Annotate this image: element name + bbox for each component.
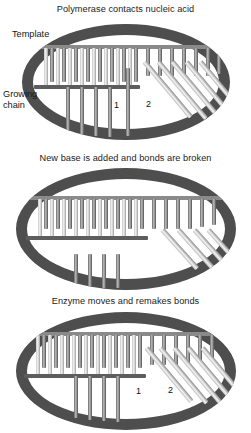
base-rung — [62, 48, 66, 82]
panel-stage — [0, 148, 251, 293]
base-rung — [92, 199, 96, 229]
panel-stage: Template Growing chain 1 2 — [0, 0, 251, 148]
free-rung — [102, 376, 106, 421]
base-rung — [56, 48, 60, 87]
base-rung — [54, 335, 58, 368]
ellipse-clip-region — [16, 312, 236, 430]
base-rung — [98, 48, 102, 82]
site-2-label: 2 — [146, 99, 151, 109]
ellipse-clip-region — [16, 168, 236, 290]
unpaired-rung — [164, 199, 168, 229]
free-rung — [116, 254, 120, 288]
base-rung — [72, 335, 76, 375]
base-rung — [122, 199, 126, 237]
base-rung — [134, 48, 138, 82]
ellipse-clip-region — [22, 24, 230, 140]
base-rung — [42, 335, 46, 368]
base-rung — [56, 199, 60, 229]
base-rung — [110, 48, 114, 82]
base-rung — [68, 199, 72, 229]
base-rung — [78, 335, 82, 368]
base-rung — [44, 48, 48, 87]
base-rung — [86, 199, 90, 237]
unpaired-rung — [200, 199, 204, 227]
base-rung — [74, 48, 78, 82]
base-rung — [36, 335, 40, 375]
panel-enzyme-moves: Enzyme moves and remakes bonds — [0, 293, 251, 433]
base-rung — [80, 199, 84, 229]
base-rung — [128, 199, 132, 229]
base-rung — [90, 335, 94, 368]
base-rung — [104, 48, 108, 87]
base-rung — [102, 335, 106, 368]
growing-chain-label-line2: chain — [3, 100, 25, 110]
unpaired-rung — [152, 199, 156, 229]
free-rung — [74, 376, 78, 418]
growing-chain-backbone — [24, 374, 146, 378]
base-rung — [116, 199, 120, 229]
panel-stage: 1 2 — [0, 293, 251, 433]
site-1-label: 1 — [114, 100, 119, 110]
base-rung — [66, 335, 70, 368]
base-rung — [140, 199, 144, 229]
base-rung — [110, 199, 114, 237]
base-rung — [48, 335, 52, 375]
polymerase-mechanism-figure: Polymerase contacts nucleic acid — [0, 0, 251, 433]
panel-new-base-added: New base is added and bonds are broken — [0, 148, 251, 293]
base-rung — [132, 335, 136, 375]
free-rung — [80, 87, 84, 135]
base-rung — [126, 335, 130, 368]
growing-chain-backbone — [34, 85, 140, 89]
base-rung — [134, 199, 138, 237]
unpaired-rung — [217, 48, 221, 74]
base-rung — [50, 48, 54, 82]
base-rung — [98, 199, 102, 237]
base-rung — [138, 335, 142, 368]
free-rung — [108, 87, 112, 137]
base-rung — [114, 335, 118, 368]
free-rung — [88, 376, 92, 420]
growing-chain-backbone — [26, 236, 148, 240]
base-rung — [108, 335, 112, 375]
free-rung — [102, 254, 106, 288]
panel-polymerase-contacts: Polymerase contacts nucleic acid — [0, 0, 251, 148]
base-rung — [38, 199, 42, 237]
free-rung — [88, 254, 92, 288]
site-1-label: 1 — [136, 386, 141, 396]
growing-chain-label-line1: Growing — [3, 89, 37, 99]
base-rung — [80, 48, 84, 87]
base-rung — [116, 48, 120, 87]
free-rung — [126, 68, 130, 136]
base-rung — [44, 199, 48, 229]
base-rung — [50, 199, 54, 237]
template-label: Template — [12, 29, 49, 39]
base-rung — [92, 48, 96, 87]
unpaired-rung — [176, 199, 180, 229]
base-rung — [104, 199, 108, 229]
unpaired-rung — [188, 199, 192, 229]
free-rung — [94, 87, 98, 136]
free-rung — [116, 376, 120, 422]
base-rung — [96, 335, 100, 375]
base-rung — [120, 335, 124, 375]
base-rung — [84, 335, 88, 375]
base-rung — [74, 199, 78, 237]
base-rung — [68, 48, 72, 87]
free-rung — [66, 87, 70, 133]
base-rung — [86, 48, 90, 82]
site-2-label: 2 — [168, 385, 173, 395]
base-rung — [62, 199, 66, 237]
base-rung — [60, 335, 64, 375]
unpaired-rung — [212, 199, 216, 225]
free-rung — [74, 254, 78, 288]
